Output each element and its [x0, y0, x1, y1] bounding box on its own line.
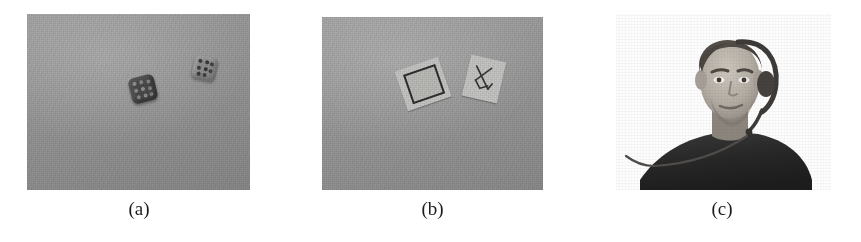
figure-panel-row: (a) (b)	[0, 0, 861, 242]
photo-person-headset	[616, 14, 831, 190]
figure-panel-c: (c)	[0, 0, 861, 242]
person-figure	[616, 14, 831, 190]
panel-caption-c: (c)	[588, 198, 856, 220]
